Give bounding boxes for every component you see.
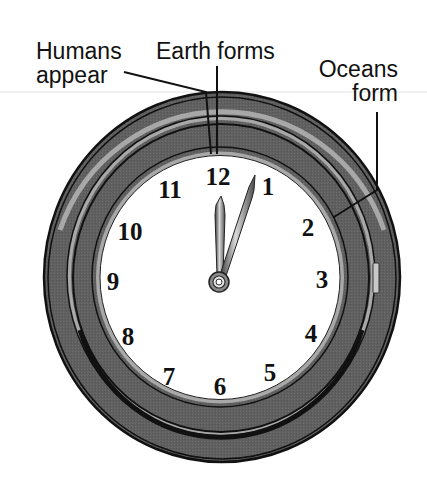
label-earth-forms: Earth forms (156, 39, 275, 63)
numeral-6: 6 (214, 373, 227, 400)
numeral-11: 11 (158, 176, 182, 203)
label-humans-appear: Humans appear (36, 39, 122, 87)
numeral-1: 1 (262, 173, 275, 200)
label-oceans-line2: form (300, 81, 398, 105)
label-oceans-line1: Oceans (300, 57, 398, 81)
numeral-3: 3 (316, 266, 329, 293)
numeral-5: 5 (264, 359, 277, 386)
label-earth-text: Earth forms (156, 39, 275, 63)
numeral-4: 4 (305, 320, 318, 347)
numeral-2: 2 (302, 214, 315, 241)
label-oceans-form: Oceans form (300, 57, 398, 105)
numeral-7: 7 (163, 363, 176, 390)
geologic-clock-diagram: 12 1 2 3 4 5 6 7 8 9 10 11 (0, 0, 427, 501)
numeral-10: 10 (118, 218, 143, 245)
numeral-9: 9 (107, 268, 120, 295)
numeral-12: 12 (206, 163, 231, 190)
label-humans-line1: Humans (36, 39, 122, 63)
numeral-8: 8 (122, 323, 135, 350)
label-humans-line2: appear (36, 63, 122, 87)
crown-button-icon (373, 263, 379, 293)
